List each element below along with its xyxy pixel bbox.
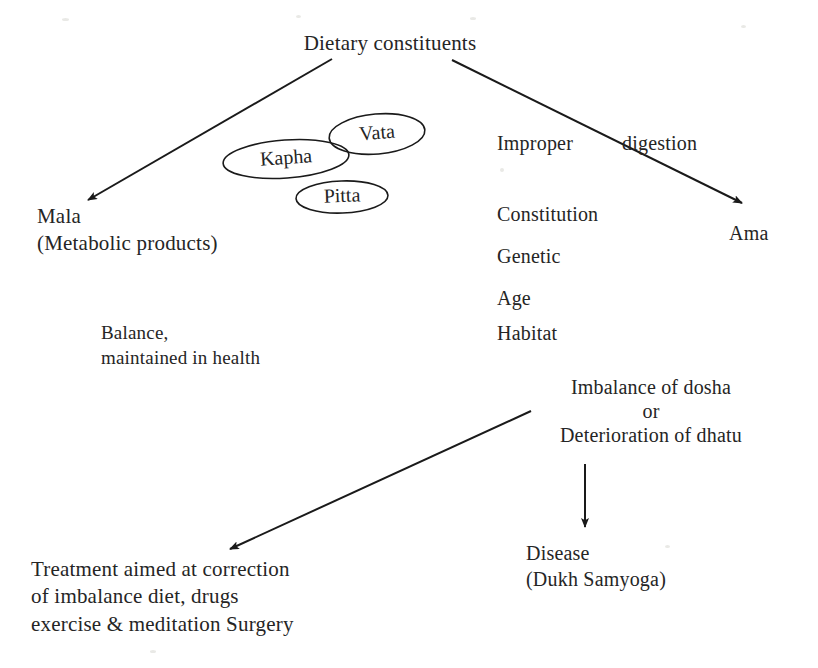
paper-speck [470,17,476,20]
node-factor-habitat: Habitat [497,320,557,346]
node-ama: Ama [729,220,768,246]
node-improper-digestion-left: Improper [497,130,573,156]
node-factor-age: Age [497,285,531,311]
ayurveda-pathogenesis-diagram: VataKaphaPitta Dietary constituents Mala… [0,0,818,668]
dosha-label-kapha: Kapha [222,142,349,174]
node-factor-genetic: Genetic [497,243,561,269]
node-imbalance-or: or [506,398,796,424]
dosha-label-pitta: Pitta [296,182,389,208]
node-mala: Mala (Metabolic products) [37,203,218,258]
node-disease: Disease (Dukh Samyoga) [526,540,666,592]
arrow-to-ama [452,60,742,203]
paper-speck [741,25,746,28]
node-improper-digestion-right: digestion [622,130,697,156]
paper-speck [150,650,156,653]
arrow-to-treatment [230,411,531,549]
node-imbalance-of-dosha: Imbalance of dosha [506,374,796,400]
arrow-to-mala [88,59,332,200]
node-balance: Balance, maintained in health [101,321,260,370]
node-treatment: Treatment aimed at correction of imbalan… [31,556,294,638]
paper-speck [296,15,301,18]
node-deterioration-of-dhatu: Deterioration of dhatu [506,422,796,448]
paper-speck [500,168,504,172]
paper-speck [62,18,69,21]
node-factor-constitution: Constitution [497,201,598,227]
node-dietary-constituents: Dietary constituents [259,30,521,57]
